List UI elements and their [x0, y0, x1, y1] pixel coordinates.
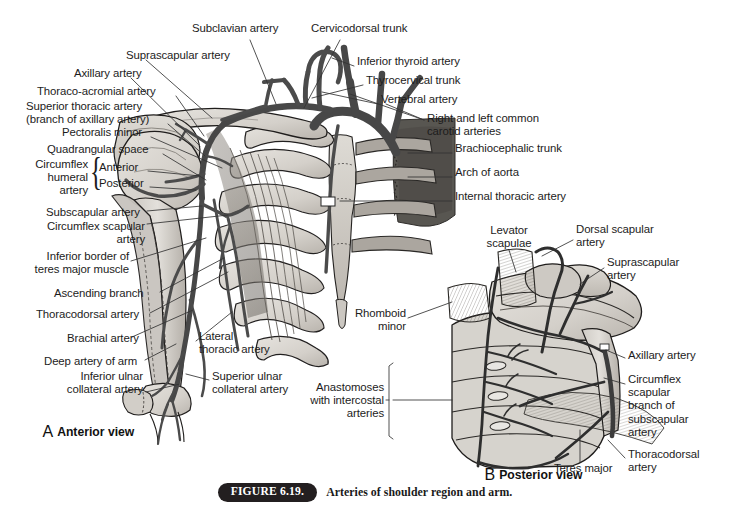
- label-brachiocephalic-trunk: Brachiocephalic trunk: [455, 142, 562, 155]
- label-thoraco-acromial-artery: Thoraco-acromial artery: [37, 85, 156, 98]
- label-inferior-border-teres-major: Inferior border of teres major muscle: [0, 250, 129, 276]
- label-dorsal-scapular-artery: Dorsal scapular artery: [576, 223, 654, 249]
- label-circumflex-humeral-artery: Circumflex humeral artery: [0, 158, 88, 198]
- label-thoracodorsal-artery-b: Thoracodorsal artery: [628, 448, 700, 474]
- label-axillary-artery-b: Axillary artery: [628, 349, 696, 362]
- label-internal-thoracic-artery: Internal thoracic artery: [455, 190, 566, 203]
- label-levator-scapulae: Levator scapulae: [470, 224, 548, 250]
- panel-a-letter: A: [42, 423, 53, 440]
- label-circumflex-scapular-artery: Circumflex scapular artery: [0, 220, 145, 246]
- label-cervicodorsal-trunk: Cervicodorsal trunk: [311, 22, 407, 35]
- label-inferior-thyroid-artery: Inferior thyroid artery: [357, 55, 460, 68]
- label-inferior-ulnar-collateral-artery: Inferior ulnar collateral artery: [0, 370, 143, 396]
- figure-root: Subclavian artery Cervicodorsal trunk Su…: [0, 0, 730, 528]
- label-brachial-artery: Brachial artery: [67, 332, 139, 345]
- label-axillary-artery: Axillary artery: [74, 67, 142, 80]
- figure-caption-row: FIGURE 6.19. Arteries of shoulder region…: [0, 481, 730, 503]
- label-vertebral-artery: Vertebral artery: [381, 93, 457, 106]
- label-lateral-thoracic-artery: Lateral thoracic artery: [199, 330, 270, 356]
- label-circumflex-humeral-posterior: Posterior: [99, 177, 144, 190]
- label-subscapular-artery: Subscapular artery: [46, 206, 140, 219]
- figure-caption-text: Arteries of shoulder region and arm.: [326, 485, 512, 500]
- label-circumflex-scapular-branch: Circumflex scapular branch of subscapula…: [628, 373, 688, 439]
- label-superior-ulnar-collateral-artery: Superior ulnar collateral artery: [212, 370, 288, 396]
- label-rhomboid-minor: Rhomboid minor: [326, 307, 406, 333]
- panel-a-view-label: AAnterior view: [28, 408, 134, 456]
- label-circumflex-humeral-anterior: Anterior: [99, 161, 138, 174]
- label-anastomoses-intercostal: Anastomoses with intercostal arteries: [284, 381, 384, 421]
- panel-b-view-text: Posterior view: [499, 468, 582, 482]
- label-superior-thoracic-artery: Superior thoracic artery (branch of axil…: [26, 100, 149, 126]
- label-arch-of-aorta: Arch of aorta: [455, 166, 519, 179]
- panel-a-view-text: Anterior view: [57, 425, 134, 439]
- label-ascending-branch: Ascending branch: [54, 287, 144, 300]
- label-thoracodorsal-artery-a: Thoracodorsal artery: [36, 308, 139, 321]
- label-pectoralis-minor: Pectoralis minor: [62, 126, 142, 139]
- label-deep-artery-of-arm: Deep artery of arm: [44, 355, 137, 368]
- label-suprascapular-artery: Suprascapular artery: [126, 49, 230, 62]
- label-subclavian-artery: Subclavian artery: [192, 22, 278, 35]
- label-thyrocervical-trunk: Thyrocervical trunk: [366, 74, 460, 87]
- label-common-carotid-arteries: Right and left common carotid arteries: [427, 112, 539, 138]
- figure-number-badge: FIGURE 6.19.: [218, 483, 318, 502]
- label-suprascapular-artery-b: Suprascapular artery: [607, 256, 679, 282]
